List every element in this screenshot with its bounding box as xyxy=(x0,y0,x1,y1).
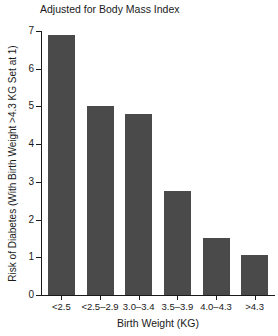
x-tick-mark xyxy=(255,296,256,300)
y-axis-title: Risk of Diabetes (With Birth Weight >4.3… xyxy=(7,31,18,297)
x-tick-mark xyxy=(139,296,140,300)
chart-title: Adjusted for Body Mass Index xyxy=(40,3,270,16)
bar xyxy=(48,35,75,295)
x-tick-mark xyxy=(61,296,62,300)
y-tick-mark xyxy=(36,220,41,221)
bar-chart: Adjusted for Body Mass Index 01234567 Ri… xyxy=(0,0,278,336)
x-tick-mark xyxy=(177,296,178,300)
bar xyxy=(164,191,191,295)
x-tick-mark xyxy=(100,296,101,300)
y-tick-mark xyxy=(36,257,41,258)
bar xyxy=(241,255,268,295)
x-tick-label: >4.3 xyxy=(225,301,278,312)
bar xyxy=(87,106,114,295)
y-tick-mark xyxy=(36,144,41,145)
x-tick-mark xyxy=(216,296,217,300)
plot-area xyxy=(42,31,274,295)
y-tick-mark xyxy=(36,182,41,183)
x-axis-title: Birth Weight (KG) xyxy=(41,317,275,329)
x-axis-line xyxy=(41,295,275,296)
y-tick-mark xyxy=(36,69,41,70)
bar xyxy=(203,238,230,295)
y-tick-mark xyxy=(36,31,41,32)
bar xyxy=(125,114,152,295)
y-tick-mark xyxy=(36,106,41,107)
y-tick-mark xyxy=(36,295,41,296)
